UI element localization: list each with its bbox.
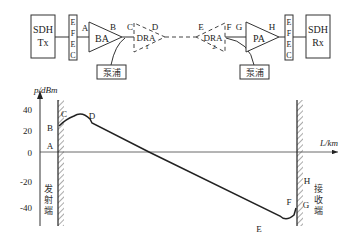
dra2-label-1: DRA <box>203 33 223 43</box>
pa-label: PA <box>253 33 266 44</box>
power-level-chart: p/dBm 40 20 0 -20 -40 L/km 发 射 端 接 收 端 A… <box>20 85 339 234</box>
efec-left-3: E <box>71 40 76 49</box>
chart-point-a: A <box>47 141 54 151</box>
power-curve <box>59 114 296 219</box>
chart-point-d: D <box>89 111 96 121</box>
efec-left-4: C <box>70 51 75 60</box>
efec-left-2: F <box>71 29 76 38</box>
efec-right-1: E <box>287 18 292 27</box>
y-axis-label: p/dBm <box>33 85 58 95</box>
sdh-tx-label-2: Tx <box>37 37 48 48</box>
chart-point-f: F <box>286 197 291 207</box>
efec-right-3: E <box>287 40 292 49</box>
efec-left-1: E <box>71 18 76 27</box>
ytick-40: 40 <box>23 105 33 115</box>
ytick-neg20: -20 <box>20 177 32 187</box>
sdh-rx-label-1: SDH <box>308 24 328 35</box>
receive-label-2: 收 <box>314 194 323 205</box>
ba-label: BA <box>95 33 110 44</box>
x-axis-label: L/km <box>319 138 339 148</box>
chart-point-h: H <box>304 176 311 186</box>
point-h-label: H <box>269 22 276 32</box>
ytick-0: 0 <box>28 148 33 158</box>
pump-right-label: 泵浦 <box>246 67 264 78</box>
point-c-label: C <box>127 22 133 32</box>
point-g-label: G <box>236 22 243 32</box>
sdh-rx-label-2: Rx <box>312 37 324 48</box>
point-e-label: E <box>198 22 204 32</box>
ytick-neg40: -40 <box>20 203 32 213</box>
chart-point-e: E <box>256 224 262 234</box>
point-d-label: D <box>152 22 159 32</box>
point-f-label: F <box>226 22 231 32</box>
point-b-label: B <box>110 22 116 32</box>
point-a-label: A <box>82 23 89 33</box>
dra2-label-2: 2 <box>212 43 216 51</box>
chart-point-b: B <box>47 123 53 133</box>
dra1-label-2: 1 <box>145 43 149 51</box>
sdh-tx-label-1: SDH <box>33 24 53 35</box>
chart-point-c: C <box>61 109 67 119</box>
receive-label-1: 接 <box>314 183 323 194</box>
chart-point-g: G <box>303 200 310 210</box>
transmit-label-2: 射 <box>44 194 53 205</box>
optical-link-diagram: SDH Tx E F E C A BA B C 泵浦 DRA 1 D E DRA <box>0 0 354 243</box>
pump-left-label: 泵浦 <box>103 67 121 78</box>
transmit-label-3: 端 <box>44 205 53 216</box>
transmit-label-1: 发 <box>44 183 53 194</box>
ytick-20: 20 <box>23 126 33 136</box>
receive-label-3: 端 <box>314 205 323 216</box>
system-block-diagram: SDH Tx E F E C A BA B C 泵浦 DRA 1 D E DRA <box>31 15 330 79</box>
dra1-label-1: DRA <box>136 33 156 43</box>
efec-right-4: C <box>286 51 291 60</box>
efec-right-2: F <box>287 29 292 38</box>
